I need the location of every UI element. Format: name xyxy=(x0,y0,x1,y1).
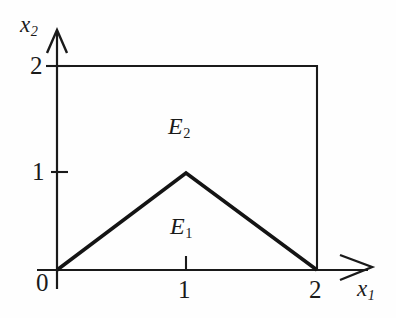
y-tick-label-2: 2 xyxy=(30,53,43,78)
figure-container: x2 x1 2 1 0 1 2 E2 E1 xyxy=(0,0,396,318)
x-tick-label-1: 1 xyxy=(178,277,191,302)
origin-label: 0 xyxy=(36,270,49,295)
y-axis-label-subscript: 2 xyxy=(31,23,38,39)
diagram-canvas xyxy=(0,0,396,318)
region-label-e2-subscript: 2 xyxy=(183,125,190,141)
y-tick-label-1: 1 xyxy=(32,159,45,184)
y-axis-label: x2 xyxy=(20,13,38,38)
region-label-e2: E2 xyxy=(168,114,190,141)
region-label-e1-base: E xyxy=(170,213,185,239)
region-label-e2-base: E xyxy=(168,113,183,139)
region-label-e1-subscript: 1 xyxy=(185,225,192,241)
x-axis-label-base: x xyxy=(357,276,367,301)
region-label-e1: E1 xyxy=(170,214,192,241)
y-axis-label-base: x xyxy=(20,12,30,37)
x-tick-label-2: 2 xyxy=(309,277,322,302)
x-axis-label: x1 xyxy=(357,277,375,302)
x-axis-label-subscript: 1 xyxy=(368,287,375,303)
